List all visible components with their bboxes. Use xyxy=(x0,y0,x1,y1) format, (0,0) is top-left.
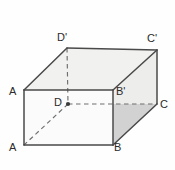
vertex-markers-group xyxy=(66,102,70,106)
vertex-label-A-top: A xyxy=(9,86,16,97)
vertex-label-D-prime: D' xyxy=(57,32,67,43)
vertex-label-B-prime: B' xyxy=(116,86,125,97)
vertex-label-D-hidden: D xyxy=(54,97,62,108)
faces-group xyxy=(24,48,157,145)
cuboid-figure: AB'C'D'ABCD xyxy=(0,0,175,170)
vertex-label-C-right: C xyxy=(160,99,168,110)
vertex-label-A-bottom: A xyxy=(9,142,16,153)
vertex-label-B-bottom: B xyxy=(114,142,121,153)
vertex-label-C-prime: C' xyxy=(147,33,157,44)
cuboid-svg xyxy=(0,0,175,170)
vertex-dot-D xyxy=(66,102,70,106)
front-face xyxy=(24,90,113,145)
